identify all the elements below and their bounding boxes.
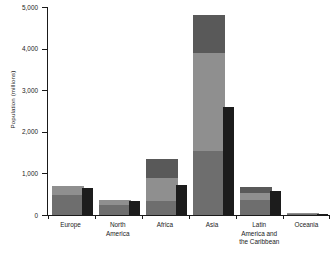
front-bar <box>176 185 187 215</box>
back-bar <box>240 187 272 215</box>
back-bar <box>287 213 319 215</box>
x-axis-label: Europe <box>47 221 94 230</box>
x-axis-label: North America <box>94 221 141 238</box>
bar-group <box>52 7 95 215</box>
bar-segment-lower <box>146 201 178 215</box>
bar-group <box>146 7 189 215</box>
bar-segment-lower <box>52 195 84 215</box>
x-axis-label: Asia <box>189 221 236 230</box>
x-tick-mark <box>142 215 143 219</box>
y-tick-label: 1,000 <box>22 170 38 177</box>
x-tick-mark <box>283 215 284 219</box>
x-tick-mark <box>189 215 190 219</box>
plot-area <box>47 7 329 215</box>
front-bar <box>223 107 234 215</box>
front-bar <box>270 191 281 215</box>
back-bar <box>193 15 225 216</box>
bar-group <box>240 7 283 215</box>
y-tick-mark <box>42 215 47 216</box>
front-bar <box>317 214 328 215</box>
y-tick-label: 2,000 <box>22 128 38 135</box>
bar-segment-lower <box>287 214 319 215</box>
x-tick-mark <box>48 215 49 219</box>
y-tick-label: 5,000 <box>22 4 38 11</box>
bar-group <box>193 7 236 215</box>
back-bar <box>99 200 131 215</box>
bar-segment-lower <box>99 205 131 215</box>
x-axis-label: Africa <box>141 221 188 230</box>
bar-group <box>99 7 142 215</box>
population-bar-chart: Population (millions) 01,0002,0003,0004,… <box>0 0 336 254</box>
back-bar <box>52 186 84 215</box>
bar-group <box>287 7 330 215</box>
front-bar <box>82 188 93 215</box>
x-axis-label: Oceania <box>283 221 330 230</box>
y-tick-label: 0 <box>34 212 38 219</box>
back-bar <box>146 159 178 215</box>
front-bar <box>129 201 140 215</box>
x-tick-mark <box>236 215 237 219</box>
x-tick-mark <box>329 215 330 219</box>
y-tick-label: 4,000 <box>22 45 38 52</box>
bar-segment-lower <box>240 200 272 215</box>
y-tick-label: 3,000 <box>22 87 38 94</box>
bar-segment-lower <box>193 151 225 215</box>
x-tick-mark <box>95 215 96 219</box>
y-axis-title: Population (millions) <box>9 45 16 155</box>
x-axis-label: Latin America and the Caribbean <box>236 221 283 247</box>
